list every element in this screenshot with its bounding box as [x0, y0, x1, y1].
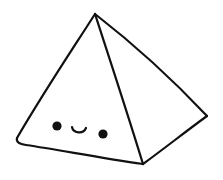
pyramid-base-front-edge [17, 138, 143, 164]
right-eye [98, 129, 107, 138]
left-eye [52, 121, 61, 130]
pyramid-illustration: Hand-drawn black line-art square pyramid… [0, 0, 223, 180]
pyramid-base-right-edge [143, 116, 207, 164]
pyramid-drawing [0, 0, 223, 180]
pyramid-center-ridge [95, 14, 143, 164]
smile-mouth [72, 127, 86, 132]
pyramid-left-edge [17, 14, 95, 138]
pyramid-face [52, 121, 107, 138]
